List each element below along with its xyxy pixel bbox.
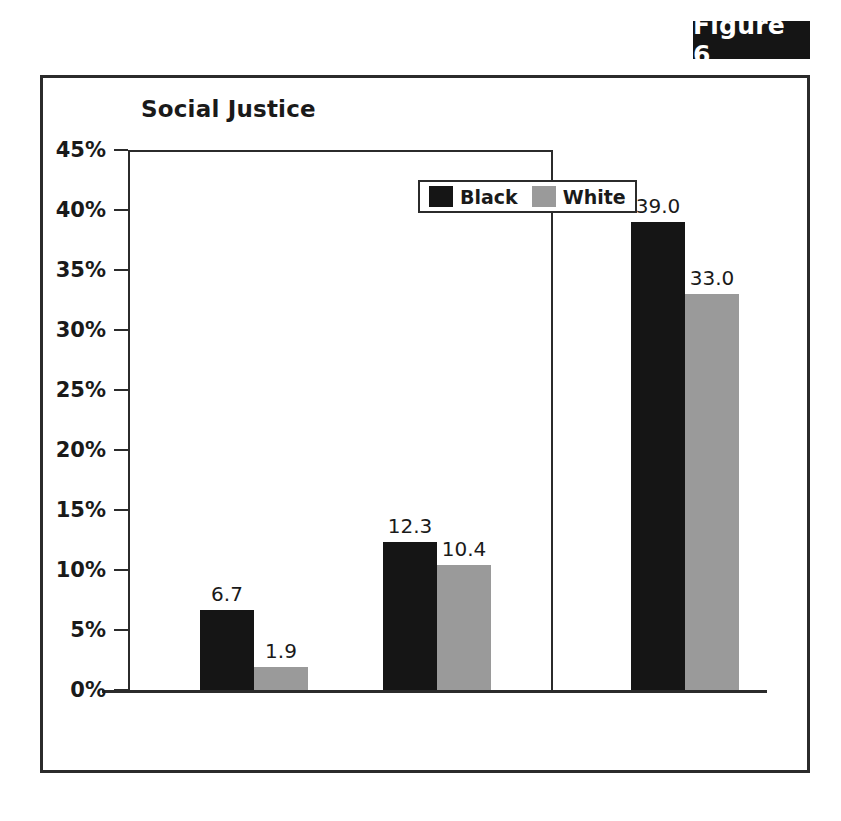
chart-plot-area: 0%5%10%15%20%25%30%35%40%45% 6.71.912.31… bbox=[128, 150, 767, 690]
chart-title: Social Justice bbox=[141, 96, 316, 122]
bar-black-1 bbox=[383, 542, 437, 690]
bar-value-label: 39.0 bbox=[636, 194, 681, 218]
chart-legend: Black White bbox=[418, 180, 637, 213]
bar-value-label: 10.4 bbox=[442, 537, 487, 561]
y-axis-tick-mark bbox=[114, 509, 128, 511]
legend-item-black: Black bbox=[429, 186, 518, 208]
y-axis-tick-mark bbox=[114, 449, 128, 451]
figure-number-badge: Figure 6 bbox=[693, 21, 810, 59]
y-axis-tick-mark bbox=[114, 269, 128, 271]
y-axis-tick-mark bbox=[114, 569, 128, 571]
bar-white-1 bbox=[437, 565, 491, 690]
y-axis-tick-mark bbox=[114, 689, 128, 691]
legend-label-white: White bbox=[563, 186, 626, 208]
legend-item-white: White bbox=[532, 186, 626, 208]
y-axis-tick-label: 15% bbox=[56, 498, 106, 522]
y-axis-tick-label: 0% bbox=[70, 678, 106, 702]
x-axis-line bbox=[102, 690, 767, 693]
black-swatch-icon bbox=[429, 186, 453, 207]
bar-black-0 bbox=[200, 610, 254, 690]
bar-value-label: 12.3 bbox=[388, 514, 433, 538]
y-axis-tick-label: 25% bbox=[56, 378, 106, 402]
y-axis-tick-mark bbox=[114, 389, 128, 391]
y-axis-tick-mark bbox=[114, 149, 128, 151]
y-axis-tick-label: 35% bbox=[56, 258, 106, 282]
bar-value-label: 1.9 bbox=[265, 639, 297, 663]
legend-label-black: Black bbox=[460, 186, 518, 208]
figure-number-label: Figure 6 bbox=[693, 11, 810, 69]
bar-white-0 bbox=[254, 667, 308, 690]
y-axis-line bbox=[128, 150, 130, 690]
y-axis-tick-label: 45% bbox=[56, 138, 106, 162]
y-axis-tick-label: 10% bbox=[56, 558, 106, 582]
panel-divider-line bbox=[551, 150, 553, 690]
y-axis-tick-label: 20% bbox=[56, 438, 106, 462]
y-axis-tick-label: 40% bbox=[56, 198, 106, 222]
bar-value-label: 33.0 bbox=[690, 266, 735, 290]
y-axis-tick-mark bbox=[114, 329, 128, 331]
y-axis-tick-mark bbox=[114, 629, 128, 631]
bar-white-2 bbox=[685, 294, 739, 690]
y-axis-tick-mark bbox=[114, 209, 128, 211]
y-axis-tick-label: 30% bbox=[56, 318, 106, 342]
y-axis-tick-label: 5% bbox=[70, 618, 106, 642]
bar-value-label: 6.7 bbox=[211, 582, 243, 606]
percent-panel-top-rule bbox=[128, 150, 552, 152]
gray-swatch-icon bbox=[532, 186, 556, 207]
bar-black-2 bbox=[631, 222, 685, 690]
